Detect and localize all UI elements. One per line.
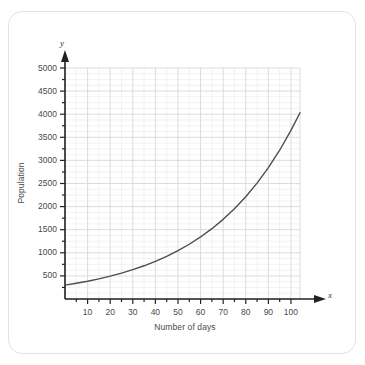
y-tick-label-1500: 1500 <box>27 224 57 234</box>
axis-lines <box>61 50 326 303</box>
y-axis-title: Population <box>16 141 26 225</box>
x-axis-arrowhead <box>314 295 326 303</box>
y-tick-label-3500: 3500 <box>27 132 57 142</box>
y-tick-label-2000: 2000 <box>27 201 57 211</box>
x-axis-title: Number of days <box>120 322 250 332</box>
x-tick-label-10: 10 <box>76 307 100 317</box>
x-tick-label-80: 80 <box>234 307 258 317</box>
x-tick-label-70: 70 <box>211 307 235 317</box>
population-growth-chart: Population Number of days y x 5000450040… <box>0 0 365 365</box>
population-curve <box>65 113 300 285</box>
x-tick-label-40: 40 <box>143 307 167 317</box>
y-axis-letter-label: y <box>60 38 64 48</box>
x-tick-label-50: 50 <box>166 307 190 317</box>
x-tick-label-60: 60 <box>189 307 213 317</box>
y-axis-arrowhead <box>61 50 69 62</box>
x-tick-label-90: 90 <box>256 307 280 317</box>
x-tick-label-30: 30 <box>121 307 145 317</box>
y-tick-label-500: 500 <box>27 270 57 280</box>
y-tick-label-4000: 4000 <box>27 109 57 119</box>
y-tick-label-5000: 5000 <box>27 63 57 73</box>
y-tick-label-1000: 1000 <box>27 247 57 257</box>
y-tick-label-3000: 3000 <box>27 155 57 165</box>
x-tick-label-20: 20 <box>98 307 122 317</box>
axis-tick-marks <box>60 68 291 304</box>
x-tick-label-100: 100 <box>279 307 303 317</box>
x-axis-letter-label: x <box>328 290 332 300</box>
y-tick-label-4500: 4500 <box>27 86 57 96</box>
y-tick-label-2500: 2500 <box>27 178 57 188</box>
